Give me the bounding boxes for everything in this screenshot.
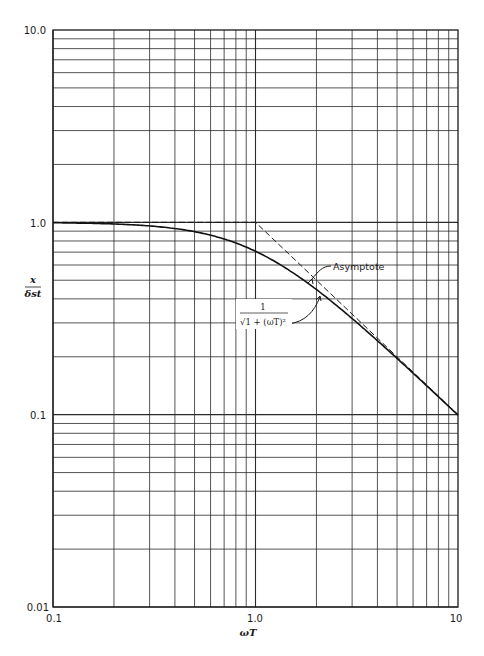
formula-numerator: 1 xyxy=(260,302,265,312)
y-tick-10: 10.0 xyxy=(24,25,46,36)
x-tick-0.1: 0.1 xyxy=(46,613,62,624)
x-tick-10: 10 xyxy=(450,613,463,624)
x-tick-1: 1.0 xyxy=(247,613,263,624)
y-axis-label-denominator: δst xyxy=(24,288,42,299)
x-axis-label: ωT xyxy=(240,627,259,638)
formula-denominator: √1 + (ωT)² xyxy=(240,317,286,327)
y-tick-0.01: 0.01 xyxy=(27,602,49,613)
asymptote-label: Asymptote xyxy=(333,261,385,272)
y-tick-0.1: 0.1 xyxy=(30,410,46,421)
chart-labels: 10.0 1.0 0.1 0.01 0.1 1.0 10 ωT x δst As… xyxy=(0,0,484,656)
y-tick-1: 1.0 xyxy=(30,218,46,229)
y-axis-label-numerator: x xyxy=(29,274,37,285)
